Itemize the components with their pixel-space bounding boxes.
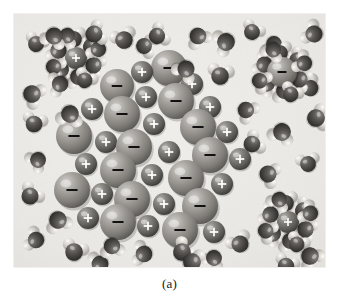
figure-container: (a) (0, 0, 339, 304)
sphere-highlight (69, 52, 76, 57)
sphere-highlight (272, 63, 281, 70)
anion-minus-sign (68, 135, 79, 137)
anion-minus-sign (126, 198, 137, 200)
charge-bar-v (87, 214, 89, 223)
sphere-highlight (139, 91, 146, 96)
sphere-highlight (174, 168, 185, 176)
sphere-highlight (122, 137, 133, 145)
charge-bar-v (213, 228, 215, 237)
charge-bar-h (192, 126, 203, 128)
charge-bar-v (145, 93, 147, 102)
charge-bar-v (163, 200, 165, 209)
charge-bar-v (287, 218, 289, 226)
sphere-highlight (162, 146, 169, 151)
anion-minus-sign (112, 169, 123, 171)
sphere-highlight (62, 126, 73, 134)
charge-bar-v (105, 138, 107, 147)
sphere-highlight (281, 216, 288, 221)
charge-bar-v (153, 120, 155, 129)
sphere-highlight (106, 212, 117, 220)
charge-bar-h (194, 205, 205, 207)
sphere-highlight (188, 196, 199, 204)
charge-bar-v (147, 222, 149, 231)
charge-bar-v (141, 68, 143, 77)
charge-bar-v (151, 171, 153, 180)
anion-minus-sign (170, 100, 181, 102)
charge-bar-h (112, 221, 123, 223)
anion-minus-sign (194, 205, 205, 207)
charge-bar-h (66, 189, 77, 191)
anion-minus-sign (112, 221, 123, 223)
anion-minus-sign (278, 71, 287, 73)
sphere-highlight (233, 153, 240, 158)
anion-minus-sign (116, 113, 127, 115)
anion-minus-sign (204, 154, 215, 156)
charge-bar-h (174, 229, 185, 231)
sphere-highlight (60, 180, 71, 188)
charge-bar-h (170, 100, 181, 102)
charge-bar-v (168, 148, 170, 157)
sphere-highlight (203, 101, 210, 106)
anion-minus-sign (112, 85, 123, 87)
sphere-highlight (85, 103, 92, 108)
figure-caption: (a) (0, 276, 339, 292)
charge-bar-v (221, 180, 223, 189)
charge-bar-v (209, 103, 211, 112)
charge-bar-h (128, 146, 139, 148)
anion-minus-sign (180, 177, 191, 179)
charge-bar-h (112, 85, 123, 87)
sphere-highlight (164, 91, 175, 99)
sphere-highlight (157, 198, 164, 203)
sphere-highlight (186, 117, 197, 125)
sphere-highlight (215, 178, 222, 183)
anion-minus-sign (192, 126, 203, 128)
anion-minus-sign (128, 146, 139, 148)
sphere-highlight (168, 220, 179, 228)
sphere-highlight (79, 158, 86, 163)
sphere-highlight (157, 58, 168, 66)
sphere-highlight (106, 160, 117, 168)
sphere-highlight (141, 220, 148, 225)
charge-bar-h (204, 154, 215, 156)
charge-bar-h (116, 113, 127, 115)
sphere-highlight (207, 226, 214, 231)
sphere-highlight (110, 104, 121, 112)
charge-bar-h (112, 169, 123, 171)
sphere-highlight (145, 169, 152, 174)
sphere-highlight (106, 76, 116, 83)
sphere-highlight (220, 126, 227, 131)
charge-bar-v (239, 155, 241, 164)
charge-bar-v (101, 190, 103, 199)
charge-bar-v (226, 128, 228, 137)
anion-minus-sign (174, 229, 185, 231)
anion-minus-sign (66, 189, 77, 191)
molecular-model-photo (14, 14, 325, 267)
charge-bar-h (278, 71, 287, 73)
molecular-scene-svg (14, 14, 325, 267)
sphere-highlight (95, 188, 102, 193)
sphere-highlight (120, 189, 131, 197)
charge-bar-v (75, 54, 77, 62)
sphere-highlight (99, 136, 106, 141)
charge-bar-v (91, 105, 93, 114)
sphere-highlight (147, 118, 154, 123)
charge-bar-h (180, 177, 191, 179)
sphere-highlight (198, 145, 209, 153)
charge-bar-v (85, 160, 87, 169)
sphere-highlight (81, 212, 88, 217)
sphere-highlight (135, 66, 142, 71)
charge-bar-h (68, 135, 79, 137)
charge-bar-h (126, 198, 137, 200)
